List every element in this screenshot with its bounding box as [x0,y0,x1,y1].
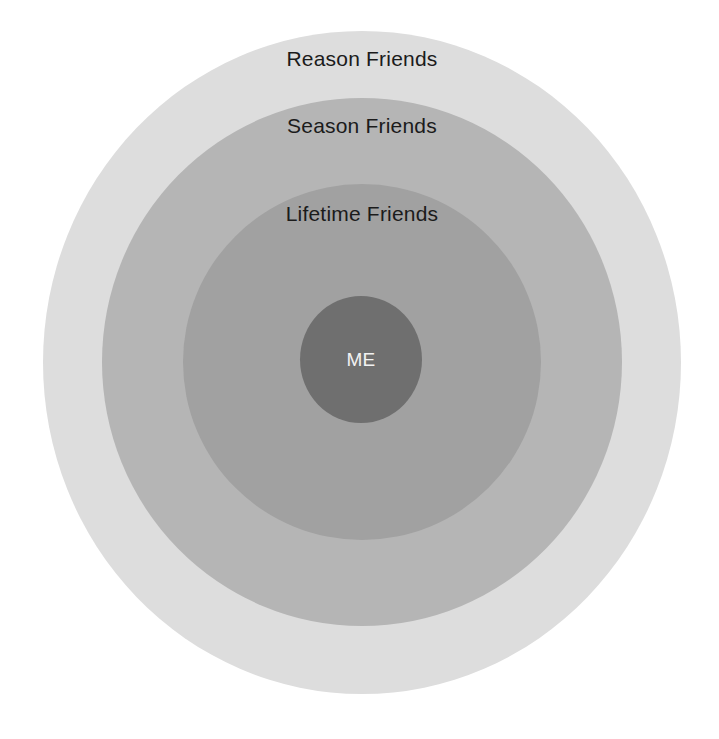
concentric-circles-diagram: Reason Friends Season Friends Lifetime F… [0,0,719,739]
ring-label-me: ME [300,296,422,423]
ring-label-reason-friends: Reason Friends [43,48,681,69]
ring-label-lifetime-friends: Lifetime Friends [183,203,541,224]
ring-me-core: ME [300,296,422,423]
ring-label-season-friends: Season Friends [102,115,622,136]
